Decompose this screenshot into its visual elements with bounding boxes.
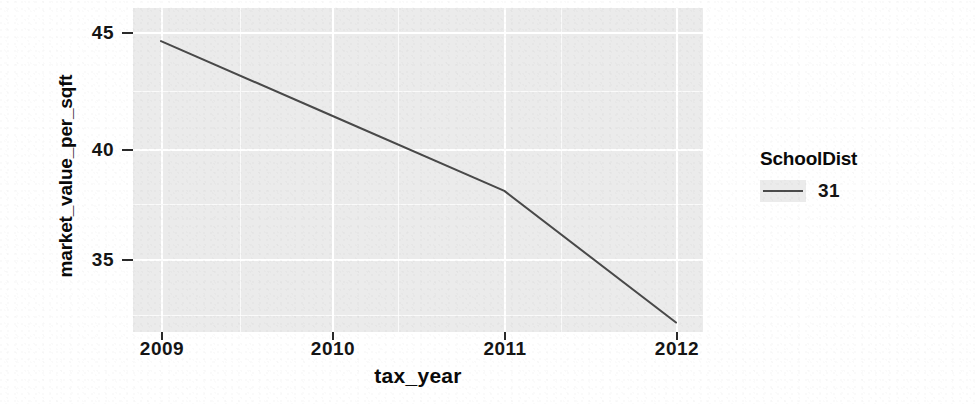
- x-tick-label-2012: 2012: [632, 338, 722, 360]
- y-tick-mark-35: [122, 259, 133, 261]
- legend-item-31[interactable]: 31: [760, 180, 950, 202]
- x-axis-title: tax_year: [133, 364, 703, 388]
- y-tick-mark-40: [122, 149, 133, 151]
- y-tick-label-45: 45: [66, 22, 114, 44]
- legend-title: SchoolDist: [760, 148, 950, 170]
- y-tick-label-35: 35: [66, 249, 114, 271]
- series-layer: [133, 8, 703, 332]
- x-tick-label-2009: 2009: [117, 338, 207, 360]
- chart-figure: market_value_per_sqft 45 40 35: [0, 0, 975, 404]
- series-line-31: [161, 41, 676, 322]
- x-tick-label-2011: 2011: [460, 338, 550, 360]
- y-axis-tick-labels: 45 40 35: [66, 0, 114, 340]
- legend: SchoolDist 31: [760, 148, 950, 202]
- y-tick-label-40: 40: [66, 139, 114, 161]
- y-tick-mark-45: [122, 32, 133, 34]
- plot-panel: [133, 8, 703, 332]
- legend-label-31: 31: [818, 180, 840, 202]
- legend-key-line-icon: [760, 180, 806, 202]
- x-tick-label-2010: 2010: [288, 338, 378, 360]
